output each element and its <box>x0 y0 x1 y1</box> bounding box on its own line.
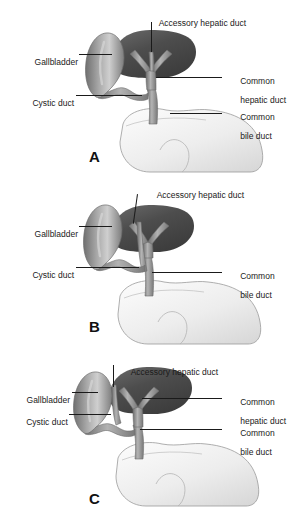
leader-common-bile-duct-b <box>152 272 222 273</box>
accessory-hepatic-duct-shape <box>149 52 154 71</box>
panel-b: Gallbladder Cystic duct Accessory hepati… <box>0 170 297 340</box>
common-hepatic-duct-shape <box>133 407 143 427</box>
panel-c: Gallbladder Cystic duct Accessory hepati… <box>0 345 297 515</box>
leader-cystic-duct-a <box>76 95 142 96</box>
label-gallbladder-a: Gallbladder <box>12 48 78 77</box>
panel-a: Gallbladder Cystic duct Accessory hepati… <box>0 0 297 170</box>
leader-gallbladder-b <box>79 226 112 227</box>
label-text-line2: bile duct <box>240 131 272 141</box>
label-cystic-duct-a: Cystic duct <box>12 89 74 118</box>
label-text-line1: Common <box>240 428 274 438</box>
label-text: Gallbladder <box>35 57 78 67</box>
label-text: Cystic duct <box>26 417 68 427</box>
label-text: Accessory hepatic duct <box>159 18 246 28</box>
label-text: Accessory hepatic duct <box>157 190 244 200</box>
common-hepatic-duct-shape <box>146 70 156 90</box>
label-accessory-hepatic-duct-a: Accessory hepatic duct <box>145 9 246 38</box>
label-gallbladder-b: Gallbladder <box>12 220 78 249</box>
leader-cystic-duct-c <box>69 414 111 415</box>
label-common-bile-duct-a: Common bile duct <box>226 103 275 151</box>
label-text: Gallbladder <box>35 229 78 239</box>
label-text: Accessory hepatic duct <box>131 367 218 377</box>
label-accessory-hepatic-duct-b: Accessory hepatic duct <box>143 181 244 210</box>
label-text-line1: Common <box>240 271 274 281</box>
leader-gallbladder-a <box>79 54 112 55</box>
leader-gallbladder-c <box>72 392 98 393</box>
leader-common-bile-duct-a <box>170 113 222 114</box>
leader-common-hepatic-duct-a <box>156 77 222 78</box>
leader-accessory-hepatic-duct-c <box>113 365 114 387</box>
label-cystic-duct-c: Cystic duct <box>12 408 67 437</box>
label-text-line1: Common <box>240 76 274 86</box>
biliary-anatomy-figure: Gallbladder Cystic duct Accessory hepati… <box>0 0 297 520</box>
leader-common-hepatic-duct-c <box>142 398 222 399</box>
label-text: Gallbladder <box>27 395 70 405</box>
panel-letter-c: C <box>89 490 100 507</box>
label-text-line1: Common <box>240 397 274 407</box>
label-common-bile-duct-c: Common bile duct <box>226 419 275 467</box>
label-accessory-hepatic-duct-c: Accessory hepatic duct <box>117 358 218 387</box>
panel-letter-a: A <box>89 148 100 165</box>
panel-letter-b: B <box>89 318 100 335</box>
hepatic-lobe-shape <box>112 205 194 252</box>
label-text-line2: bile duct <box>240 447 272 457</box>
label-text-line1: Common <box>240 112 274 122</box>
label-common-bile-duct-b: Common bile duct <box>226 262 275 310</box>
label-text: Cystic duct <box>32 98 74 108</box>
leader-cystic-duct-b <box>76 267 139 268</box>
label-text: Cystic duct <box>32 270 74 280</box>
leader-common-bile-duct-c <box>140 429 222 430</box>
label-cystic-duct-b: Cystic duct <box>12 261 74 290</box>
label-text-line2: bile duct <box>240 290 272 300</box>
